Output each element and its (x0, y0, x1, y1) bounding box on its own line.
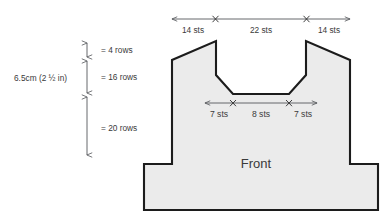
top-ruler-label-left-shoulder: 14 sts (182, 25, 204, 35)
garment-front-outline (144, 41, 378, 210)
top-ruler-label-center-neck: 22 sts (250, 25, 272, 35)
neckline-label-right-slope: 7 sts (294, 109, 312, 119)
front-piece-label: Front (241, 156, 272, 171)
row-scale-label-body: = 20 rows (101, 123, 137, 133)
neckline-label-left-slope: 7 sts (210, 109, 228, 119)
vertical-row-scale: = 4 rows = 16 rows = 20 rows 6.5cm (2 ½ … (14, 43, 137, 155)
garment-schematic-diagram: 14 sts 22 sts 14 sts 7 sts 8 sts 7 sts =… (0, 0, 383, 217)
row-scale-label-neck: = 16 rows (101, 72, 137, 82)
overall-depth-label: 6.5cm (2 ½ in) (14, 73, 67, 83)
top-stitch-ruler: 14 sts 22 sts 14 sts (172, 16, 350, 35)
neckline-label-center-base: 8 sts (252, 109, 270, 119)
row-scale-label-shoulder: = 4 rows (101, 45, 133, 55)
top-ruler-label-right-shoulder: 14 sts (318, 25, 340, 35)
neckline-stitch-ruler: 7 sts 8 sts 7 sts (205, 100, 317, 119)
